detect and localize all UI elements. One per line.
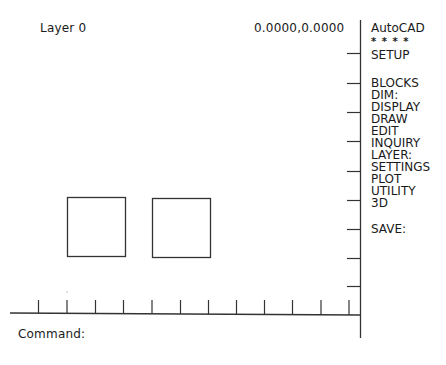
ruler-baseline — [10, 313, 360, 315]
command-prompt: Command: — [18, 327, 85, 341]
menu-item-save[interactable]: SAVE: — [371, 223, 406, 235]
speck — [66, 291, 68, 293]
current-layer-label: Layer 0 — [40, 22, 86, 34]
command-line[interactable]: Command: — [18, 323, 348, 339]
divider-ticks — [347, 54, 360, 287]
rectangle-entity-2[interactable] — [153, 199, 211, 258]
coordinate-readout: 0.0000,0.0000 — [254, 22, 344, 34]
menu-item-3d[interactable]: 3D — [371, 197, 388, 209]
screen-menu-title[interactable]: AutoCAD — [371, 22, 425, 34]
screen-menu-separator[interactable]: * * * * — [371, 36, 409, 48]
rectangle-entity-1[interactable] — [68, 198, 126, 257]
ruler-ticks — [39, 300, 350, 315]
menu-item-setup[interactable]: SETUP — [371, 49, 410, 61]
